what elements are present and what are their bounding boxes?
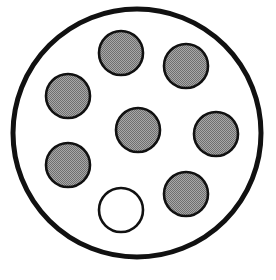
circle-bottom-empty (99, 188, 143, 232)
circle-center (116, 108, 160, 152)
circle-lower-left (46, 143, 90, 187)
circle-lower-right (164, 172, 208, 216)
circle-upper-left (46, 74, 90, 118)
circle-packing-diagram (0, 0, 276, 280)
circle-upper-right (164, 44, 208, 88)
circle-right (194, 112, 238, 156)
diagram-canvas (0, 0, 276, 280)
circle-top (99, 31, 143, 75)
